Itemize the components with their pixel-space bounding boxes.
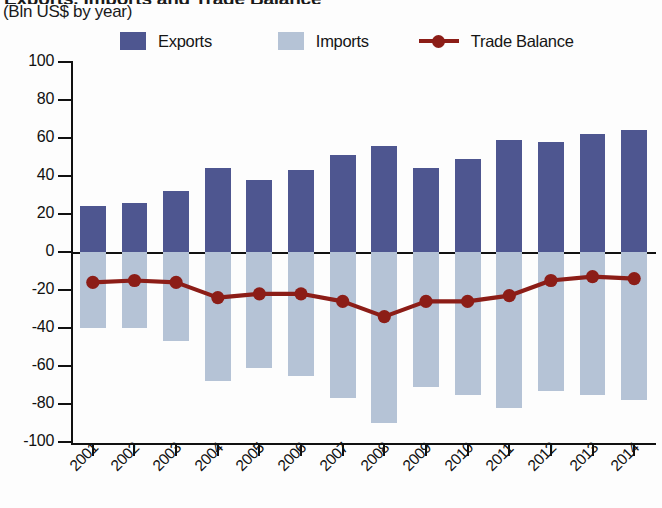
- x-axis-line: [71, 443, 656, 445]
- chart-page: Exports, Imports and Trade Balance (Bln …: [0, 0, 662, 508]
- y-tick-mark: [58, 441, 72, 443]
- bar-exports: [621, 130, 647, 252]
- bar-exports: [330, 155, 356, 252]
- y-tick-label: -20: [2, 280, 54, 298]
- bar-imports: [246, 252, 272, 368]
- bar-imports: [205, 252, 231, 381]
- bar-imports: [538, 252, 564, 391]
- chart-subtitle: (Bln US$ by year): [3, 2, 132, 22]
- bar-exports: [538, 142, 564, 252]
- y-tick-label: 60: [2, 128, 54, 146]
- y-tick-label: 0: [2, 242, 54, 260]
- bar-imports: [580, 252, 606, 395]
- bar-exports: [413, 168, 439, 252]
- bar-imports: [621, 252, 647, 400]
- bar-exports: [455, 159, 481, 252]
- trade-balance-line-marker-icon: [419, 32, 459, 50]
- bar-imports: [80, 252, 106, 328]
- bar-imports: [163, 252, 189, 341]
- legend-label-imports: Imports: [316, 32, 369, 51]
- y-tick-mark: [58, 213, 72, 215]
- legend-label-exports: Exports: [158, 32, 212, 51]
- y-tick-mark: [58, 327, 72, 329]
- bar-imports: [122, 252, 148, 328]
- bar-imports: [455, 252, 481, 395]
- bar-imports: [371, 252, 397, 423]
- bar-exports: [246, 180, 272, 252]
- chart-legend: Exports Imports Trade Balance: [120, 28, 574, 54]
- bar-exports: [205, 168, 231, 252]
- plot-area: [72, 62, 655, 442]
- bar-imports: [288, 252, 314, 376]
- legend-item-trade-balance: Trade Balance: [419, 32, 574, 51]
- bar-exports: [496, 140, 522, 252]
- y-tick-label: 40: [2, 166, 54, 184]
- y-tick-mark: [58, 61, 72, 63]
- y-tick-label: -40: [2, 318, 54, 336]
- bar-imports: [496, 252, 522, 408]
- bar-imports: [330, 252, 356, 398]
- y-tick-mark: [58, 175, 72, 177]
- y-tick-mark: [58, 99, 72, 101]
- y-tick-mark: [58, 251, 72, 253]
- y-tick-label: 20: [2, 204, 54, 222]
- bar-imports: [413, 252, 439, 387]
- bar-exports: [580, 134, 606, 252]
- y-tick-label: -60: [2, 356, 54, 374]
- legend-label-trade-balance: Trade Balance: [471, 32, 574, 51]
- imports-swatch-icon: [278, 32, 304, 50]
- y-tick-mark: [58, 403, 72, 405]
- y-tick-label: -100: [2, 432, 54, 450]
- bar-exports: [80, 206, 106, 252]
- bar-exports: [163, 191, 189, 252]
- legend-item-exports: Exports: [120, 32, 212, 51]
- legend-item-imports: Imports: [278, 32, 369, 51]
- bar-exports: [288, 170, 314, 252]
- y-tick-label: -80: [2, 394, 54, 412]
- y-tick-mark: [58, 365, 72, 367]
- y-tick-label: 100: [2, 52, 54, 70]
- bar-exports: [371, 146, 397, 252]
- y-tick-label: 80: [2, 90, 54, 108]
- y-tick-mark: [58, 137, 72, 139]
- y-tick-mark: [58, 289, 72, 291]
- exports-swatch-icon: [120, 32, 146, 50]
- bar-exports: [122, 203, 148, 252]
